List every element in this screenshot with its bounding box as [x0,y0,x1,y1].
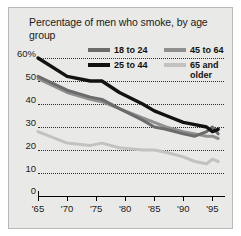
chart-figure: Percentage of men who smoke, by age grou… [8,7,233,229]
x-axis-tick [38,196,39,201]
x-axis-label: '90 [177,203,189,214]
x-axis-label: '85 [148,203,160,214]
x-axis-tick [96,196,97,201]
x-axis-tick [154,196,155,201]
x-axis-tick [125,196,126,201]
x-axis-ticks: '65'70'75'80'85'90'95 [9,8,233,229]
x-axis-label: '65 [32,203,44,214]
x-axis-tick [183,196,184,201]
x-axis-tick [212,196,213,201]
x-axis-label: '70 [61,203,73,214]
x-axis-tick [67,196,68,201]
x-axis-label: '95 [206,203,218,214]
x-axis-label: '80 [119,203,131,214]
x-axis-label: '75 [90,203,102,214]
